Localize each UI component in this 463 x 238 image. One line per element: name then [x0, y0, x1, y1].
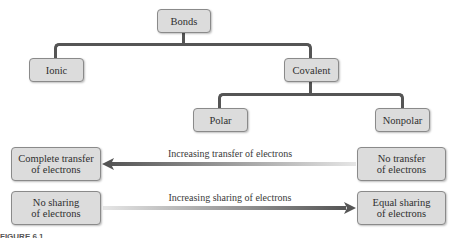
no-sharing-line2: of electrons: [31, 208, 80, 219]
complete-transfer-line1: Complete transfer: [18, 153, 94, 164]
no-sharing-line1: No sharing: [33, 197, 79, 208]
figure-caption: FIGURE 6.1: [0, 232, 44, 238]
complete-transfer-node: Complete transfer of electrons: [11, 147, 101, 181]
no-sharing-node: No sharing of electrons: [11, 191, 101, 225]
no-transfer-line2: of electrons: [377, 164, 426, 175]
sharing-arrow-right-icon: [103, 202, 356, 214]
complete-transfer-line2: of electrons: [31, 164, 80, 175]
transfer-arrow-left-icon: [102, 158, 356, 170]
transfer-arrow-label: Increasing transfer of electrons: [140, 148, 320, 159]
equal-sharing-node: Equal sharing of electrons: [357, 191, 446, 225]
equal-sharing-line1: Equal sharing: [372, 197, 430, 208]
sharing-arrow-label: Increasing sharing of electrons: [140, 192, 320, 203]
no-transfer-line1: No transfer: [378, 153, 426, 164]
no-transfer-node: No transfer of electrons: [357, 147, 446, 181]
equal-sharing-line2: of electrons: [377, 208, 426, 219]
